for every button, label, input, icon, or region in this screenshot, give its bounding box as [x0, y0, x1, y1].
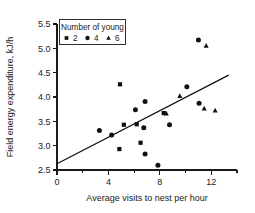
y-tick-label: 2.5 — [38, 165, 51, 175]
data-point-triangle — [213, 108, 218, 113]
data-point-square — [117, 147, 121, 151]
y-axis-title: Field energy expenditure, kJ/h — [5, 37, 15, 158]
regression-line — [57, 75, 229, 164]
x-tick-label: 8 — [157, 177, 162, 187]
data-point-circle — [197, 101, 202, 106]
data-point-circle — [167, 122, 172, 127]
y-tick-label: 4.5 — [38, 68, 51, 78]
data-point-square — [138, 141, 142, 145]
data-point-circle — [155, 163, 160, 168]
data-point-triangle — [177, 93, 182, 98]
data-point-circle — [109, 132, 114, 137]
scatter-chart: 2.53.03.54.04.55.05.504812Average visits… — [0, 0, 255, 213]
chart-canvas: 2.53.03.54.04.55.05.504812Average visits… — [0, 0, 255, 213]
data-point-square — [122, 123, 126, 127]
y-tick-label: 4.0 — [38, 92, 51, 102]
data-point-circle — [184, 84, 189, 89]
legend-marker-circle — [85, 36, 89, 40]
y-tick-label: 3.0 — [38, 141, 51, 151]
legend-label: 2 — [73, 34, 78, 43]
data-point-circle — [196, 38, 201, 43]
data-point-circle — [97, 128, 102, 133]
x-axis-title: Average visits to nest per hour — [86, 193, 207, 203]
data-point-triangle — [204, 43, 209, 48]
x-tick-label: 12 — [206, 177, 216, 187]
data-point-circle — [143, 151, 148, 156]
y-tick-label: 5.5 — [38, 19, 51, 29]
y-tick-label: 5.0 — [38, 44, 51, 54]
legend-marker-square — [65, 36, 69, 40]
data-point-circle — [133, 107, 138, 112]
legend-title: Number of young — [61, 23, 124, 32]
y-tick-label: 3.5 — [38, 117, 51, 127]
legend-label: 4 — [94, 34, 99, 43]
legend-label: 6 — [115, 34, 120, 43]
data-point-circle — [143, 99, 148, 104]
x-tick-label: 0 — [54, 177, 59, 187]
data-point-square — [118, 82, 122, 86]
data-point-circle — [141, 125, 146, 130]
data-point-square — [135, 122, 139, 126]
data-point-triangle — [202, 106, 207, 111]
x-tick-label: 4 — [106, 177, 111, 187]
